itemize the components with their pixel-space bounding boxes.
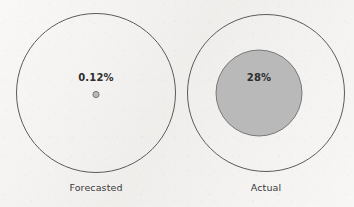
actual-value-label: 28%: [247, 72, 272, 83]
forecasted-inner-circle: [93, 91, 99, 97]
proportional-circle-chart: 0.12% Forecasted 28% Actual: [0, 0, 354, 207]
actual-inner-circle: [216, 50, 302, 136]
panel-actual: 28% Actual: [188, 15, 345, 194]
actual-caption: Actual: [251, 182, 281, 193]
forecasted-value-label: 0.12%: [78, 72, 114, 83]
panel-forecasted: 0.12% Forecasted: [17, 14, 176, 194]
forecasted-caption: Forecasted: [69, 182, 122, 193]
